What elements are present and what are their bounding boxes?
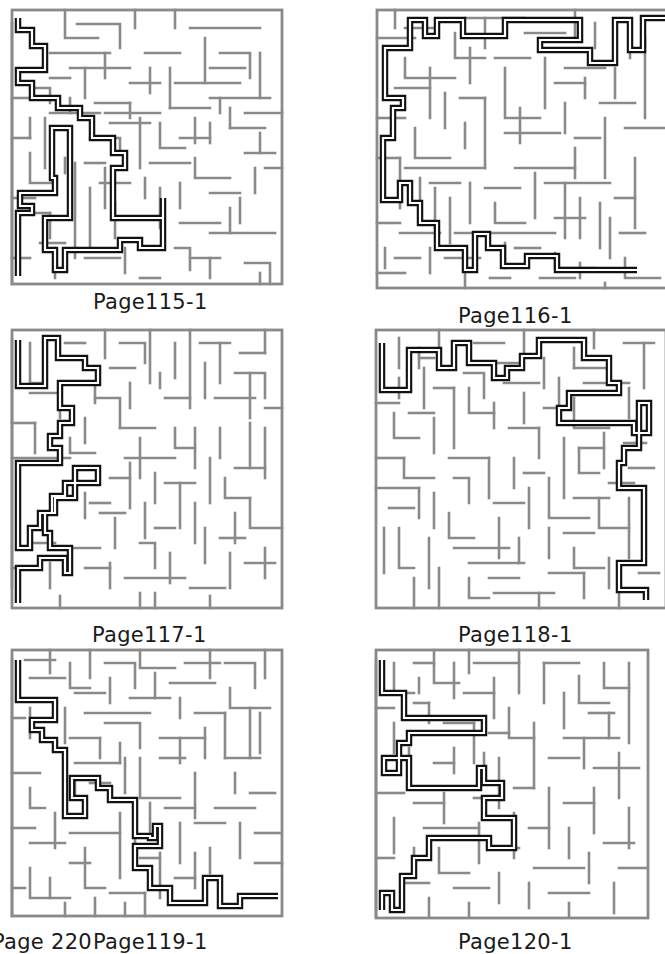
maze-graphic bbox=[10, 8, 285, 288]
maze-image bbox=[375, 8, 665, 290]
maze-graphic bbox=[375, 8, 665, 290]
maze-panel-page117: Page117-1 bbox=[0, 320, 300, 640]
maze-graphic bbox=[10, 328, 285, 610]
maze-graphic bbox=[374, 328, 664, 610]
maze-panel-page118: Page118-1 bbox=[360, 320, 648, 640]
maze-label: Page115-1 bbox=[93, 290, 208, 314]
maze-panel-page116: Page116-1 bbox=[360, 0, 648, 320]
maze-image bbox=[374, 328, 664, 610]
page-number: Page 220 bbox=[0, 930, 92, 954]
maze-graphic bbox=[374, 648, 664, 920]
maze-image bbox=[10, 328, 285, 610]
maze-image bbox=[374, 648, 664, 920]
maze-graphic bbox=[10, 648, 285, 920]
maze-label: Page119-1 bbox=[93, 930, 208, 954]
maze-panel-page115: Page115-1 bbox=[0, 0, 300, 320]
maze-panel-page120: Page120-1 bbox=[360, 640, 648, 950]
maze-label: Page120-1 bbox=[458, 930, 573, 954]
maze-image bbox=[10, 8, 285, 288]
maze-image bbox=[10, 648, 285, 920]
maze-panel-page119: Page 220 Page119-1 bbox=[0, 640, 300, 950]
